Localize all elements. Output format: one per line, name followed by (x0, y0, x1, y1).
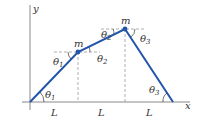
angle-theta3-end: θ3 (149, 84, 160, 97)
x-axis-label: x (185, 100, 191, 111)
y-axis-label: y (32, 3, 39, 14)
segment-label-1: L (50, 107, 58, 118)
angle-theta3-mass2: θ3 (140, 33, 151, 46)
angle-theta2-mass1: θ2 (97, 53, 108, 66)
mass-1 (76, 50, 81, 55)
diagram-svg: y x m m θ1 θ1 θ2 θ2 θ3 θ3 L L L (0, 0, 201, 120)
segment-label-3: L (145, 107, 153, 118)
mass-2-label: m (121, 15, 130, 26)
angle-theta1-mass1: θ1 (53, 56, 64, 69)
mass-2 (123, 27, 128, 32)
segment-label-2: L (97, 107, 105, 118)
rope-masses-diagram: y x m m θ1 θ1 θ2 θ2 θ3 θ3 L L L (0, 0, 201, 120)
mass-1-label: m (74, 38, 83, 49)
angle-theta1-origin: θ1 (45, 89, 56, 102)
